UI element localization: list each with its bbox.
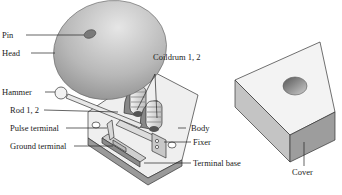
label-coildrum: Coildrum 1, 2: [153, 52, 200, 62]
label-pulse-terminal: Pulse terminal: [10, 123, 60, 133]
label-body: Body: [191, 123, 210, 133]
cover-hole: [283, 77, 307, 95]
hammer: [55, 87, 67, 99]
label-cover: Cover: [292, 167, 313, 177]
label-hammer: Hammer: [2, 87, 32, 97]
label-pin: Pin: [2, 30, 14, 40]
cover: [235, 42, 335, 162]
label-rod: Rod 1, 2: [10, 105, 39, 115]
mount-hole: [168, 142, 176, 148]
label-ground-terminal: Ground terminal: [10, 141, 67, 151]
label-head: Head: [2, 48, 21, 58]
label-terminal-base: Terminal base: [193, 158, 241, 168]
diagram-canvas: Pin Head Hammer Rod 1, 2 Pulse terminal …: [0, 0, 342, 195]
mount-hole: [92, 122, 100, 128]
label-fixer: Fixer: [193, 137, 211, 147]
